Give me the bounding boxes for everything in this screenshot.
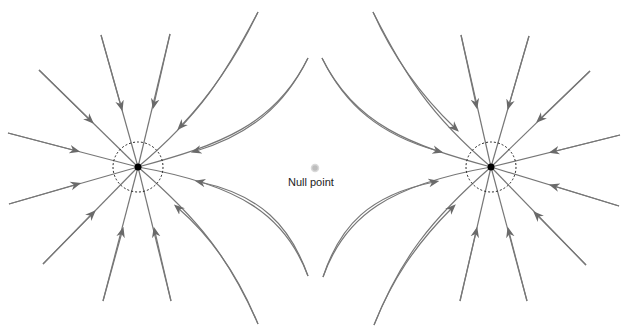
left-charge-field-lines [8,12,308,324]
null-point-marker [312,165,319,172]
field-line-diagram [0,0,634,335]
null-point-label: Null point [288,176,334,188]
left-point-charge [135,164,142,171]
right-charge-field-lines [322,12,620,325]
right-point-charge [488,164,495,171]
